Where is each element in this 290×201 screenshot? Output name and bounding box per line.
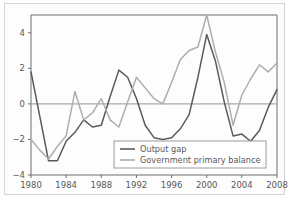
x-tick-label: 1984 bbox=[55, 180, 77, 190]
y-tick-label: −4 bbox=[12, 170, 25, 180]
x-tick-label: 1992 bbox=[126, 180, 148, 190]
chart-figure: −4−2024 19801984198819921996200020042008… bbox=[0, 0, 290, 201]
y-tick-label: 4 bbox=[20, 28, 25, 38]
y-tick-label: 2 bbox=[20, 63, 25, 73]
y-tick-label: −2 bbox=[12, 134, 25, 144]
line-chart: −4−2024 19801984198819921996200020042008… bbox=[0, 0, 290, 201]
y-axis-tick-labels: −4−2024 bbox=[12, 28, 25, 180]
y-tick-label: 0 bbox=[20, 99, 25, 109]
x-tick-label: 1980 bbox=[20, 180, 42, 190]
x-tick-label: 2000 bbox=[196, 180, 218, 190]
x-tick-label: 1988 bbox=[90, 180, 112, 190]
x-tick-label: 1996 bbox=[161, 180, 183, 190]
chart-legend: Output gap Government primary balance bbox=[114, 141, 266, 168]
legend-label-output-gap: Output gap bbox=[140, 144, 186, 154]
x-tick-label: 2004 bbox=[231, 180, 253, 190]
x-tick-label: 2008 bbox=[266, 180, 288, 190]
x-axis-tick-labels: 19801984198819921996200020042008 bbox=[20, 180, 288, 190]
data-series-group bbox=[31, 15, 277, 161]
legend-label-primary-balance: Government primary balance bbox=[140, 155, 261, 165]
